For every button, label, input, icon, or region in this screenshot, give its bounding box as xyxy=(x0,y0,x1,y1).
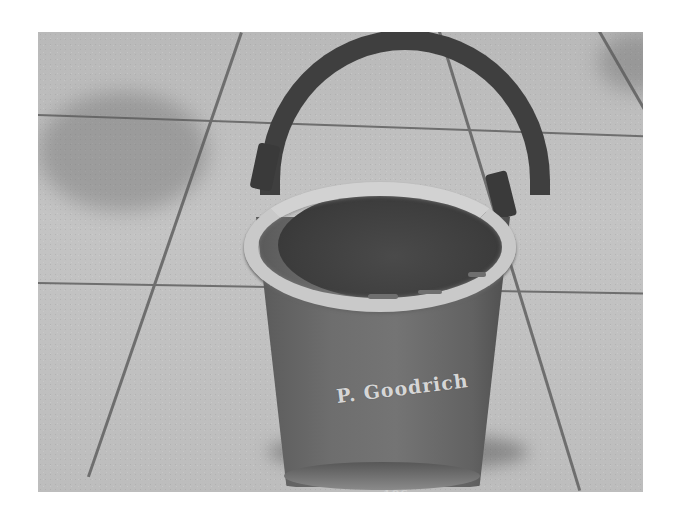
bucket-year: 186- xyxy=(383,488,415,492)
photo: P. Goodrich 186- xyxy=(38,32,643,492)
wet-stain xyxy=(38,92,208,212)
paint-chip xyxy=(418,290,442,294)
bucket-rim xyxy=(244,182,516,312)
paint-chip xyxy=(368,294,398,299)
bucket-base xyxy=(284,462,480,490)
paint-chip xyxy=(468,272,486,277)
